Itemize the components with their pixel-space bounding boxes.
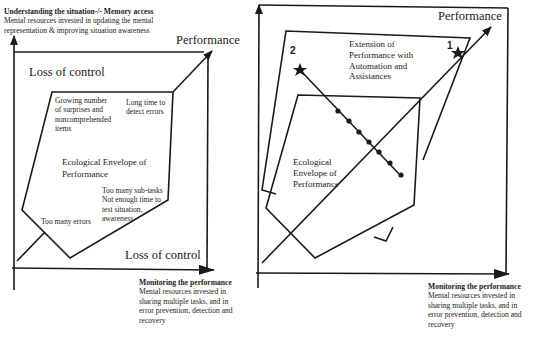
right-x-axis xyxy=(256,273,509,274)
annotation-line: noncomprehended xyxy=(55,115,111,124)
extension-label-line: Performance with xyxy=(349,50,413,61)
caption-line: Mental resources invested in xyxy=(428,291,522,300)
left-right-boundary xyxy=(207,57,208,268)
caption-line: error prevention, detection and xyxy=(139,306,233,315)
caption-line: sharing multiple tasks, and in xyxy=(428,301,522,310)
right-ecological-envelope xyxy=(266,95,420,258)
star-marker xyxy=(387,160,392,165)
annotation-long-time: Long time to detect errors xyxy=(126,98,165,117)
caption-title: Monitoring the performance xyxy=(428,282,522,291)
envelope-label-line: Ecological Envelope of xyxy=(62,156,146,168)
point-1-label: 1 xyxy=(447,40,453,51)
left-top-caption-line: Mental resources invested in updating th… xyxy=(4,16,153,25)
right-y-axis xyxy=(258,5,259,288)
right-extension-label: Extension of Performance with Automation… xyxy=(349,39,413,82)
annotation-line: detect errors xyxy=(126,107,165,116)
check-mark xyxy=(374,227,393,241)
point-2-label: 2 xyxy=(290,45,296,56)
left-loss-of-control-top: Loss of control xyxy=(29,65,105,80)
envelope-label-line: Ecological xyxy=(293,157,339,168)
right-right-boundary xyxy=(506,8,508,274)
left-top-caption: Understanding the situation-/- Memory ac… xyxy=(4,7,153,35)
right-bottom-caption: Monitoring the performance Mental resour… xyxy=(428,282,522,329)
right-top-boundary xyxy=(259,5,508,8)
extension-label-line: Automation and xyxy=(349,61,413,72)
left-x-axis xyxy=(12,268,214,270)
envelope-label-line: Envelope of xyxy=(293,168,339,179)
star-marker xyxy=(398,172,403,177)
star-marker xyxy=(356,129,361,134)
caption-line: recovery xyxy=(139,316,233,325)
star-marker xyxy=(335,108,340,113)
right-envelope-label: Ecological Envelope of Performance xyxy=(293,157,339,189)
star-marker xyxy=(376,149,381,154)
caption-title: Monitoring the performance xyxy=(139,278,233,287)
left-performance-label: Performance xyxy=(176,33,240,48)
annotation-line: Too many sub-tasks xyxy=(102,186,163,195)
left-loss-of-control-bottom: Loss of control xyxy=(125,248,201,263)
annotation-line: Growing number xyxy=(55,96,111,105)
envelope-label-line: Performance xyxy=(62,168,146,180)
annotation-line: items xyxy=(55,124,111,133)
extension-label-line: Extension of xyxy=(349,39,413,50)
caption-line: Mental resources invested in xyxy=(139,287,233,296)
annotation-line: Long time to xyxy=(126,98,165,107)
right-performance-label: Performance xyxy=(438,9,502,24)
annotation-sub-tasks: Too many sub-tasks Not enough time to te… xyxy=(102,186,163,224)
star-marker xyxy=(366,139,371,144)
annotation-line: of surprises and xyxy=(55,105,111,114)
annotation-too-many-errors: Too many errors xyxy=(41,218,91,227)
left-top-caption-title: Understanding the situation-/- Memory ac… xyxy=(4,7,153,16)
envelope-label-line: Performance xyxy=(293,179,339,190)
annotation-line: Not enough time to xyxy=(102,195,163,204)
extension-label-line: Assistances xyxy=(349,71,413,82)
annotation-line: test situation, xyxy=(102,205,163,214)
caption-line: sharing multiple tasks, and in xyxy=(139,297,233,306)
caption-line: recovery xyxy=(428,320,522,329)
left-bottom-caption: Monitoring the performance Mental resour… xyxy=(139,278,233,325)
left-top-caption-line: representation & improving situation awa… xyxy=(4,26,153,35)
annotation-line: awareness. xyxy=(102,214,163,223)
star-marker xyxy=(346,118,351,123)
caption-line: error prevention, detection and xyxy=(428,310,522,319)
left-envelope-label: Ecological Envelope of Performance xyxy=(62,156,146,180)
annotation-surprises: Growing number of surprises and noncompr… xyxy=(55,96,111,134)
left-errors-line xyxy=(17,232,45,261)
left-performance-arrow xyxy=(173,51,212,92)
